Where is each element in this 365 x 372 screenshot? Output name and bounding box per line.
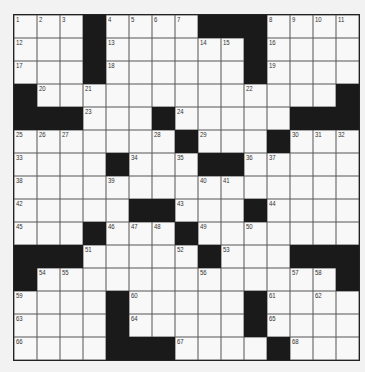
grid-cell[interactable] [83, 130, 106, 153]
grid-cell[interactable] [60, 61, 83, 84]
grid-cell[interactable]: 2 [37, 15, 60, 38]
grid-cell[interactable]: 59 [14, 291, 37, 314]
grid-cell[interactable] [313, 176, 336, 199]
grid-cell[interactable]: 21 [83, 84, 106, 107]
grid-cell[interactable]: 34 [129, 153, 152, 176]
grid-cell[interactable]: 68 [290, 337, 313, 360]
grid-cell[interactable]: 37 [267, 153, 290, 176]
grid-cell[interactable] [106, 107, 129, 130]
grid-cell[interactable] [198, 314, 221, 337]
grid-cell[interactable] [152, 268, 175, 291]
grid-cell[interactable] [290, 38, 313, 61]
grid-cell[interactable] [152, 291, 175, 314]
grid-cell[interactable] [60, 38, 83, 61]
grid-cell[interactable] [221, 199, 244, 222]
grid-cell[interactable] [175, 176, 198, 199]
grid-cell[interactable]: 36 [244, 153, 267, 176]
grid-cell[interactable]: 17 [14, 61, 37, 84]
grid-cell[interactable]: 4 [106, 15, 129, 38]
grid-cell[interactable] [198, 107, 221, 130]
grid-cell[interactable] [37, 314, 60, 337]
grid-cell[interactable] [106, 130, 129, 153]
grid-cell[interactable] [313, 38, 336, 61]
grid-cell[interactable] [83, 268, 106, 291]
grid-cell[interactable] [60, 176, 83, 199]
grid-cell[interactable] [129, 107, 152, 130]
grid-cell[interactable] [290, 291, 313, 314]
grid-cell[interactable]: 23 [83, 107, 106, 130]
grid-cell[interactable] [106, 245, 129, 268]
grid-cell[interactable] [336, 222, 359, 245]
grid-cell[interactable]: 55 [60, 268, 83, 291]
grid-cell[interactable] [290, 61, 313, 84]
grid-cell[interactable] [221, 337, 244, 360]
grid-cell[interactable] [60, 199, 83, 222]
grid-cell[interactable]: 64 [129, 314, 152, 337]
grid-cell[interactable] [129, 84, 152, 107]
grid-cell[interactable] [129, 245, 152, 268]
grid-cell[interactable] [198, 337, 221, 360]
grid-cell[interactable]: 31 [313, 130, 336, 153]
grid-cell[interactable] [152, 245, 175, 268]
grid-cell[interactable] [175, 291, 198, 314]
grid-cell[interactable] [152, 84, 175, 107]
grid-cell[interactable] [290, 222, 313, 245]
grid-cell[interactable]: 29 [198, 130, 221, 153]
grid-cell[interactable]: 43 [175, 199, 198, 222]
grid-cell[interactable]: 7 [175, 15, 198, 38]
grid-cell[interactable]: 63 [14, 314, 37, 337]
grid-cell[interactable]: 26 [37, 130, 60, 153]
grid-cell[interactable] [336, 291, 359, 314]
grid-cell[interactable] [336, 38, 359, 61]
grid-cell[interactable] [175, 314, 198, 337]
grid-cell[interactable] [221, 314, 244, 337]
grid-cell[interactable] [129, 38, 152, 61]
grid-cell[interactable]: 33 [14, 153, 37, 176]
grid-cell[interactable] [221, 84, 244, 107]
grid-cell[interactable]: 5 [129, 15, 152, 38]
grid-cell[interactable] [336, 61, 359, 84]
grid-cell[interactable] [198, 291, 221, 314]
grid-cell[interactable] [83, 337, 106, 360]
grid-cell[interactable]: 56 [198, 268, 221, 291]
grid-cell[interactable] [290, 176, 313, 199]
grid-cell[interactable] [37, 38, 60, 61]
grid-cell[interactable]: 32 [336, 130, 359, 153]
grid-cell[interactable]: 16 [267, 38, 290, 61]
grid-cell[interactable] [221, 222, 244, 245]
grid-cell[interactable]: 57 [290, 268, 313, 291]
grid-cell[interactable]: 44 [267, 199, 290, 222]
grid-cell[interactable] [336, 153, 359, 176]
grid-cell[interactable] [37, 291, 60, 314]
grid-cell[interactable] [336, 314, 359, 337]
grid-cell[interactable] [175, 84, 198, 107]
grid-cell[interactable] [83, 153, 106, 176]
grid-cell[interactable] [175, 268, 198, 291]
grid-cell[interactable] [83, 199, 106, 222]
grid-cell[interactable] [221, 107, 244, 130]
grid-cell[interactable] [290, 199, 313, 222]
grid-cell[interactable]: 15 [221, 38, 244, 61]
grid-cell[interactable] [60, 314, 83, 337]
grid-cell[interactable] [244, 337, 267, 360]
grid-cell[interactable]: 48 [152, 222, 175, 245]
grid-cell[interactable] [267, 245, 290, 268]
grid-cell[interactable] [83, 314, 106, 337]
grid-cell[interactable] [106, 84, 129, 107]
grid-cell[interactable]: 9 [290, 15, 313, 38]
grid-cell[interactable] [313, 84, 336, 107]
grid-cell[interactable]: 3 [60, 15, 83, 38]
grid-cell[interactable] [106, 268, 129, 291]
grid-cell[interactable]: 50 [244, 222, 267, 245]
grid-cell[interactable] [267, 107, 290, 130]
grid-cell[interactable] [175, 61, 198, 84]
grid-cell[interactable]: 52 [175, 245, 198, 268]
grid-cell[interactable]: 12 [14, 38, 37, 61]
grid-cell[interactable]: 8 [267, 15, 290, 38]
grid-cell[interactable] [336, 176, 359, 199]
grid-cell[interactable] [152, 38, 175, 61]
grid-cell[interactable] [313, 314, 336, 337]
grid-cell[interactable] [60, 291, 83, 314]
grid-cell[interactable] [221, 130, 244, 153]
grid-cell[interactable]: 28 [152, 130, 175, 153]
